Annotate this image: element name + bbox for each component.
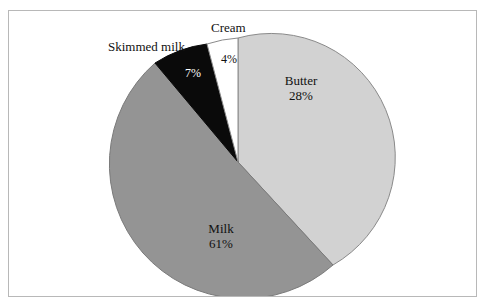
- slice-label-butter: Butter: [273, 73, 329, 88]
- slice-value-cream: 4%: [221, 52, 237, 67]
- slice-value-skimmed-milk: 7%: [185, 66, 201, 81]
- slice-label-cream: Cream: [211, 20, 246, 35]
- slice-value-milk: 61%: [193, 236, 249, 251]
- slice-label-skimmed-milk: Skimmed milk: [108, 39, 185, 54]
- pie-chart-screenshot: Skimmed milk 7% Cream 4% Butter 28% Milk…: [0, 0, 486, 307]
- slice-value-butter: 28%: [273, 88, 329, 103]
- chart-frame: Skimmed milk 7% Cream 4% Butter 28% Milk…: [8, 10, 477, 297]
- slice-label-group-milk: Milk 61%: [193, 221, 249, 251]
- slice-label-milk: Milk: [193, 221, 249, 236]
- pie-chart-graphic: [9, 11, 476, 296]
- slice-label-group-butter: Butter 28%: [273, 73, 329, 103]
